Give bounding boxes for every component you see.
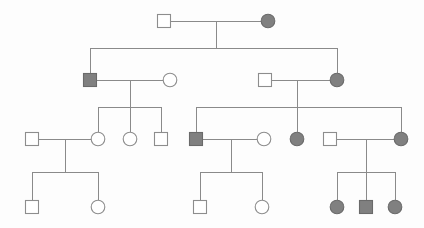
pedigree-chart: [0, 0, 424, 228]
individual-iv-3-square-unaffected: [194, 201, 207, 214]
individual-iii-5-square-affected: [190, 133, 203, 146]
individual-i-1-square-unaffected: [158, 15, 171, 28]
individual-iii-3-circle-unaffected: [123, 132, 137, 146]
individual-ii-1-square-affected: [84, 74, 97, 87]
individual-iii-6-circle-unaffected: [257, 132, 271, 146]
individual-symbols-layer: [26, 14, 408, 214]
individual-iii-1-square-unaffected: [26, 133, 39, 146]
individual-iv-4-circle-unaffected: [255, 200, 269, 214]
individual-iii-2-circle-unaffected: [91, 132, 105, 146]
individual-i-2-circle-affected: [261, 14, 275, 28]
individual-ii-2-circle-unaffected: [163, 73, 177, 87]
pedigree-canvas: [0, 0, 424, 228]
connector-lines-layer: [32, 21, 401, 201]
individual-ii-4-circle-affected: [330, 73, 344, 87]
individual-iv-1-square-unaffected: [26, 201, 39, 214]
individual-iv-7-circle-affected: [388, 200, 402, 214]
individual-iv-5-circle-affected: [330, 200, 344, 214]
individual-iii-8-square-unaffected: [324, 133, 337, 146]
individual-iii-7-circle-affected: [290, 132, 304, 146]
individual-iii-9-circle-affected: [394, 132, 408, 146]
individual-iv-2-circle-unaffected: [91, 200, 105, 214]
individual-iv-6-square-affected: [360, 201, 373, 214]
individual-iii-4-square-unaffected: [155, 133, 168, 146]
individual-ii-3-square-unaffected: [259, 74, 272, 87]
